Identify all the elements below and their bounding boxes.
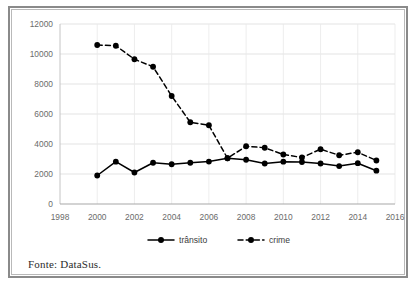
data-point-crime-2010: [280, 152, 286, 158]
line-chart: 020004000600080001000012000 199820002002…: [10, 8, 410, 280]
grid-lines: [60, 24, 395, 204]
data-point-crime-2013: [336, 152, 342, 158]
x-tick-label: 2006: [200, 212, 219, 222]
data-point-trânsito-2005: [187, 160, 193, 166]
x-tick-label: 2016: [386, 212, 405, 222]
data-point-trânsito-2014: [355, 160, 361, 166]
data-point-trânsito-2002: [132, 170, 138, 176]
data-point-crime-2004: [169, 93, 175, 99]
x-axis-tick-labels: 1998200020022004200620082010201220142016: [51, 212, 405, 222]
data-point-crime-2000: [94, 42, 100, 48]
y-tick-label: 0: [48, 199, 53, 209]
data-point-trânsito-2013: [336, 163, 342, 169]
series-line-trânsito: [97, 158, 376, 175]
data-point-trânsito-2008: [243, 157, 249, 163]
legend-swatch-marker-trânsito: [158, 237, 164, 243]
data-point-trânsito-2001: [113, 159, 119, 165]
x-tick-label: 2008: [237, 212, 256, 222]
data-point-crime-2012: [318, 146, 324, 152]
x-tick-label: 2010: [274, 212, 293, 222]
data-point-crime-2011: [299, 155, 305, 161]
data-point-crime-2007: [225, 155, 231, 161]
data-point-crime-2001: [113, 43, 119, 49]
data-point-crime-2014: [355, 149, 361, 155]
data-point-trânsito-2000: [94, 173, 100, 179]
data-point-crime-2002: [132, 56, 138, 62]
figure-frame: 020004000600080001000012000 199820002002…: [8, 6, 408, 278]
data-point-trânsito-2003: [150, 160, 156, 166]
x-tick-label: 2014: [348, 212, 367, 222]
legend-swatch-marker-crime: [248, 237, 254, 243]
legend-label-crime: crime: [269, 235, 290, 245]
data-point-crime-2015: [373, 158, 379, 164]
data-point-trânsito-2009: [262, 161, 268, 167]
legend-label-trânsito: trânsito: [179, 235, 207, 245]
y-tick-label: 8000: [34, 79, 53, 89]
y-tick-label: 2000: [34, 169, 53, 179]
data-point-crime-2006: [206, 122, 212, 128]
series-line-crime: [97, 45, 376, 161]
chart-plot-area: 020004000600080001000012000 199820002002…: [10, 8, 410, 280]
x-tick-label: 2000: [88, 212, 107, 222]
data-point-crime-2008: [243, 143, 249, 149]
y-tick-label: 4000: [34, 139, 53, 149]
x-tick-label: 2012: [311, 212, 330, 222]
y-tick-label: 12000: [30, 19, 54, 29]
data-point-crime-2003: [150, 64, 156, 70]
data-series-layer: [94, 42, 379, 178]
data-point-trânsito-2012: [318, 161, 324, 167]
x-tick-label: 1998: [51, 212, 70, 222]
figure-page: 020004000600080001000012000 199820002002…: [0, 0, 420, 290]
y-tick-label: 6000: [34, 109, 53, 119]
data-point-trânsito-2006: [206, 159, 212, 165]
data-point-trânsito-2010: [280, 159, 286, 165]
chart-legend: trânsitocrime: [148, 235, 290, 245]
y-tick-label: 10000: [30, 49, 54, 59]
data-point-trânsito-2004: [169, 161, 175, 167]
y-axis-tick-labels: 020004000600080001000012000: [30, 19, 54, 209]
x-tick-label: 2004: [162, 212, 181, 222]
data-point-crime-2009: [262, 145, 268, 151]
source-note: Fonte: DataSus.: [28, 258, 101, 270]
data-point-trânsito-2015: [373, 168, 379, 174]
data-point-crime-2005: [187, 119, 193, 125]
x-tick-label: 2002: [125, 212, 144, 222]
